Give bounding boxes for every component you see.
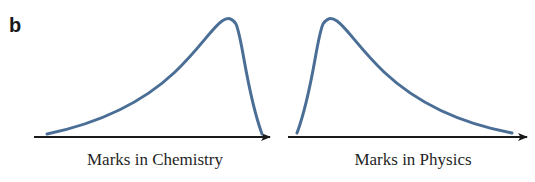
physics-x-axis-label: Marks in Physics <box>354 150 471 170</box>
chemistry-chart <box>34 19 270 137</box>
chemistry-distribution-curve <box>47 19 262 134</box>
physics-distribution-curve <box>297 19 512 133</box>
physics-chart <box>288 19 527 137</box>
chemistry-x-axis-label: Marks in Chemistry <box>87 150 223 170</box>
